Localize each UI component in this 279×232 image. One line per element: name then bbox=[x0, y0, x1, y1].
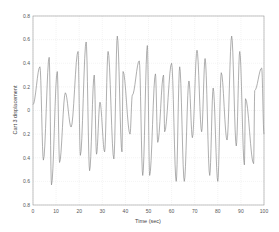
y-tick-label: 0.6 bbox=[23, 36, 30, 42]
x-tick-label: 40 bbox=[123, 208, 129, 214]
y-tick-label: 0.2 bbox=[23, 84, 30, 90]
x-tick-label: 0 bbox=[32, 208, 35, 214]
x-axis-ticks: 0102030405060708090100 bbox=[32, 208, 269, 214]
x-tick-label: 50 bbox=[146, 208, 152, 214]
x-tick-label: 90 bbox=[238, 208, 244, 214]
y-tick-label: 0.6 bbox=[23, 178, 30, 184]
x-tick-label: 100 bbox=[260, 208, 269, 214]
y-tick-label: 0.4 bbox=[23, 60, 30, 66]
y-tick-label: 0.2 bbox=[23, 131, 30, 137]
x-tick-label: 70 bbox=[192, 208, 198, 214]
x-tick-label: 60 bbox=[169, 208, 175, 214]
x-tick-label: 30 bbox=[100, 208, 106, 214]
x-axis-label: Time (sec) bbox=[135, 218, 161, 224]
y-tick-label: 0.8 bbox=[23, 13, 30, 19]
line-chart: 0102030405060708090100 0.80.60.40.200.20… bbox=[0, 0, 279, 232]
x-tick-label: 10 bbox=[53, 208, 59, 214]
y-tick-label: 0 bbox=[27, 107, 30, 113]
y-axis-label: Cart 3 displacement bbox=[12, 85, 18, 134]
x-tick-label: 80 bbox=[215, 208, 221, 214]
x-tick-label: 20 bbox=[76, 208, 82, 214]
y-tick-label: 0.8 bbox=[23, 202, 30, 208]
y-axis-ticks: 0.80.60.40.200.20.40.60.8 bbox=[23, 13, 30, 208]
y-tick-label: 0.4 bbox=[23, 155, 30, 161]
